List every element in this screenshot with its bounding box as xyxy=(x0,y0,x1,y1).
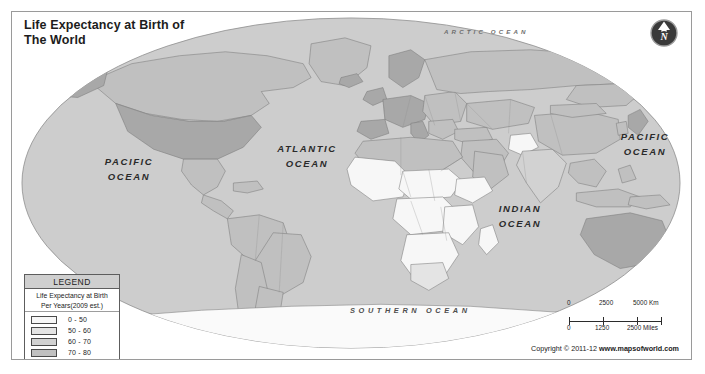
compass-letter-n: N xyxy=(659,31,668,42)
ocean-label-southern: SOUTHERN OCEAN xyxy=(350,306,471,315)
scale-tick-3 xyxy=(661,317,662,325)
map-frame: Life Expectancy at Birth of The World PA… xyxy=(11,11,692,360)
scale-km-label-2: 5000 Km xyxy=(633,299,659,306)
ocean-label-indian-line2: OCEAN xyxy=(467,217,573,232)
legend-swatch xyxy=(31,338,57,346)
legend-row[interactable]: 60 - 70 xyxy=(25,336,119,347)
ocean-label-pacific-west-line2: OCEAN xyxy=(74,170,184,185)
compass-rose-graphic: N xyxy=(648,17,680,49)
world-map-plate[interactable]: Life Expectancy at Birth of The World PA… xyxy=(12,12,691,359)
copyright-site-link[interactable]: www.mapsofworld.com xyxy=(599,344,679,353)
legend-swatch xyxy=(31,349,57,357)
legend-subtitle-line1: Life Expectancy at Birth xyxy=(27,291,117,301)
legend-row[interactable]: 50 - 60 xyxy=(25,325,119,336)
ocean-label-pacific-east-line2: OCEAN xyxy=(590,145,691,160)
ocean-label-pacific-east: PACIFIC OCEAN xyxy=(590,130,691,159)
ocean-label-pacific-west: PACIFIC OCEAN xyxy=(74,155,184,184)
legend-row[interactable]: 80 - 90 xyxy=(25,358,119,359)
ocean-label-atlantic: ATLANTIC OCEAN xyxy=(252,142,362,171)
legend-rows: 0 - 50 50 - 60 60 - 70 70 - 80 xyxy=(25,312,119,359)
scale-bar-km: 0 2500 5000 Km xyxy=(567,299,677,314)
country-new-zealand xyxy=(678,261,691,281)
scale-km-label-0: 0 xyxy=(567,299,571,306)
legend-swatch xyxy=(31,327,57,335)
page-title-line1: Life Expectancy at Birth of xyxy=(24,18,274,33)
copyright-prefix: Copyright © 2011-12 xyxy=(531,344,599,353)
map-page: Life Expectancy at Birth of The World PA… xyxy=(0,0,705,374)
scale-bar-miles: 0 1250 2500 Miles xyxy=(567,325,677,340)
scale-miles-label-1: 1250 xyxy=(595,324,609,331)
compass-north-icon: N xyxy=(648,17,680,49)
ocean-label-atlantic-line2: OCEAN xyxy=(252,157,362,172)
ocean-label-pacific-west-line1: PACIFIC xyxy=(105,156,154,167)
ocean-label-indian: INDIAN OCEAN xyxy=(467,202,573,231)
ocean-label-pacific-east-line1: PACIFIC xyxy=(621,131,670,142)
legend-subtitle: Life Expectancy at Birth Per Years(2009 … xyxy=(25,289,119,312)
legend-row[interactable]: 70 - 80 xyxy=(25,347,119,358)
legend-label: 0 - 50 xyxy=(68,316,87,323)
legend-label: 70 - 80 xyxy=(68,349,91,356)
legend-label: 60 - 70 xyxy=(68,338,91,345)
scale-miles-label-2: 2500 Miles xyxy=(627,324,658,331)
ocean-label-indian-line1: INDIAN xyxy=(499,203,541,214)
ocean-label-arctic: ARCTIC OCEAN xyxy=(444,28,529,35)
copyright-notice: Copyright © 2011-12 www.mapsofworld.com xyxy=(531,344,679,353)
scale-bar-axis xyxy=(567,314,677,325)
legend-header: LEGEND xyxy=(25,275,119,289)
scale-km-label-1: 2500 xyxy=(599,299,613,306)
scale-miles-label-0: 0 xyxy=(567,324,571,331)
legend: LEGEND Life Expectancy at Birth Per Year… xyxy=(24,274,120,359)
legend-swatch xyxy=(31,316,57,324)
ocean-label-atlantic-line1: ATLANTIC xyxy=(277,143,337,154)
scale-bar: 0 2500 5000 Km 0 1250 2500 Miles xyxy=(567,299,677,333)
legend-row[interactable]: 0 - 50 xyxy=(25,314,119,325)
scale-axis-line xyxy=(569,321,661,322)
page-title: Life Expectancy at Birth of The World xyxy=(24,18,274,49)
legend-subtitle-line2: Per Years(2009 est.) xyxy=(27,301,117,311)
page-title-line2: The World xyxy=(24,33,274,48)
legend-label: 50 - 60 xyxy=(68,327,91,334)
